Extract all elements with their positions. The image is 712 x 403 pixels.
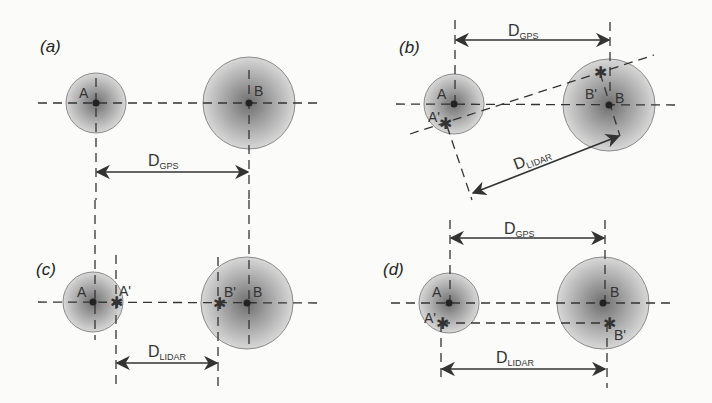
- d-lidar-label: DLIDAR: [496, 349, 535, 368]
- point-a-prime-star-icon: ✱: [439, 115, 452, 132]
- point-a-prime-star-icon: ✱: [436, 315, 449, 332]
- point-b-label: B: [615, 90, 624, 106]
- point-a-dot: [446, 300, 453, 307]
- point-b-prime-label: B': [585, 86, 597, 102]
- point-b-label: B: [254, 83, 263, 99]
- point-b-label: B: [610, 284, 619, 300]
- gps-lidar-diagram: (a) A B DGPS (b) DGPS ✱ ✱ A A' B B' DLID…: [0, 0, 712, 403]
- panel-c-label: (c): [36, 260, 56, 279]
- point-a-prime-label: A': [119, 283, 131, 299]
- d-gps-label: DGPS: [148, 152, 179, 171]
- d-lidar-label: DLIDAR: [148, 343, 187, 362]
- panel-a: (a) A B DGPS: [38, 37, 322, 200]
- panel-d-label: (d): [383, 260, 404, 279]
- point-a-label: A: [432, 284, 442, 300]
- point-b-dot: [606, 102, 613, 109]
- panel-d: (d) DGPS ✱ ✱ A A' B B' DLIDAR: [383, 220, 676, 388]
- point-a-dot: [93, 100, 100, 107]
- point-a-dot: [90, 299, 97, 306]
- point-a-prime-label: A': [428, 109, 440, 125]
- point-b-dot: [244, 300, 251, 307]
- d-gps-label: DGPS: [508, 22, 539, 41]
- point-a-label: A: [437, 86, 447, 102]
- point-b-dot: [600, 300, 607, 307]
- point-b-prime-label: B': [224, 284, 236, 300]
- d-gps-label: DGPS: [504, 220, 535, 239]
- d-lidar-arrow: [473, 136, 619, 193]
- point-b-prime-label: B': [614, 327, 626, 343]
- perpendicular-line-a-prime: [447, 126, 472, 200]
- point-b-label: B: [253, 284, 262, 300]
- point-a-label: A: [79, 85, 89, 101]
- panel-a-label: (a): [40, 37, 61, 56]
- point-a-dot: [451, 101, 458, 108]
- panel-b-label: (b): [399, 38, 420, 57]
- panel-c: (c) ✱ ✱ A A' B B' DLIDAR: [36, 200, 320, 392]
- point-a-prime-label: A': [424, 310, 436, 326]
- panel-b: (b) DGPS ✱ ✱ A A' B B' DLIDAR: [396, 20, 680, 200]
- point-b-dot: [246, 100, 253, 107]
- point-b-prime-star-icon: ✱: [594, 64, 607, 81]
- point-a-label: A: [77, 284, 87, 300]
